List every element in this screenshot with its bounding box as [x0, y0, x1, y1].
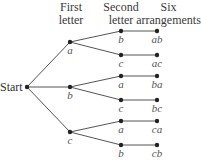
start-label: Start [0, 80, 23, 95]
label-arrangement-bc: bc [147, 102, 167, 114]
label-first-a: a [60, 44, 80, 56]
header-first-line2: letter [56, 14, 86, 27]
label-second-0: b [111, 33, 131, 45]
label-second-1: c [111, 57, 131, 69]
label-second-2: a [111, 78, 131, 90]
label-second-3: c [111, 102, 131, 114]
label-arrangement-ca: ca [147, 123, 167, 135]
label-arrangement-cb: cb [147, 147, 167, 159]
start-node [25, 85, 29, 89]
label-second-5: b [111, 147, 131, 159]
header-second-letter: Second letter [101, 1, 141, 27]
label-first-c: c [60, 134, 80, 146]
label-arrangement-ac: ac [147, 57, 167, 69]
header-six-arrangements: Six arrangements [136, 1, 201, 27]
label-arrangement-ba: ba [147, 78, 167, 90]
header-six-line2: arrangements [136, 14, 201, 27]
header-second-line2: letter [101, 14, 141, 27]
label-first-b: b [60, 89, 80, 101]
label-arrangement-ab: ab [147, 33, 167, 45]
label-second-4: a [111, 123, 131, 135]
header-first-letter: First letter [56, 1, 86, 27]
